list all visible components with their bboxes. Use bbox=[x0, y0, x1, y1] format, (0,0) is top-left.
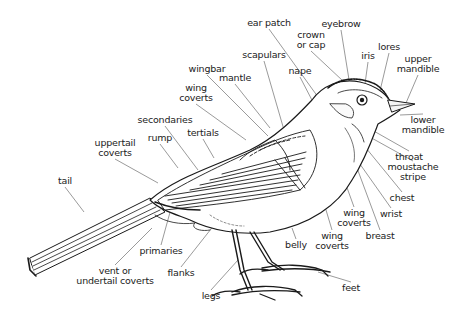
leader-line bbox=[203, 139, 214, 158]
label-mantle: mantle bbox=[195, 73, 275, 83]
label-lower-mandible: lowermandible bbox=[383, 115, 463, 135]
label-uppertail-coverts: uppertailcoverts bbox=[75, 138, 155, 158]
label-upper-mandible: uppermandible bbox=[378, 54, 458, 74]
label-moustache-stripe: moustachestripe bbox=[373, 162, 453, 182]
bird-diagram: ear patcheyebrowcrownor capirisloresuppe… bbox=[0, 0, 468, 318]
leader-line bbox=[235, 84, 270, 128]
label-vent: vent orundertail coverts bbox=[75, 266, 155, 286]
label-wing-coverts-mid: wingcoverts bbox=[314, 208, 394, 228]
label-crown: crownor cap bbox=[271, 30, 351, 50]
label-legs: legs bbox=[171, 291, 251, 301]
label-tail: tail bbox=[25, 176, 105, 186]
leader-line bbox=[115, 159, 158, 183]
label-belly: belly bbox=[256, 240, 336, 250]
label-secondaries: secondaries bbox=[125, 115, 205, 125]
label-ear-patch: ear patch bbox=[229, 18, 309, 28]
leader-line bbox=[65, 187, 84, 212]
legs bbox=[232, 230, 284, 290]
leader-line bbox=[160, 144, 178, 168]
label-primaries: primaries bbox=[121, 246, 201, 256]
label-feet: feet bbox=[311, 283, 391, 293]
leader-line bbox=[318, 272, 351, 282]
tail-feathers bbox=[28, 198, 165, 276]
leader-line bbox=[406, 75, 418, 103]
label-wing-coverts-upper: wingcoverts bbox=[156, 83, 236, 103]
label-eyebrow: eyebrow bbox=[301, 19, 381, 29]
label-lores: lores bbox=[349, 42, 429, 52]
label-chest: chest bbox=[362, 193, 442, 203]
label-scapulars: scapulars bbox=[224, 50, 304, 60]
